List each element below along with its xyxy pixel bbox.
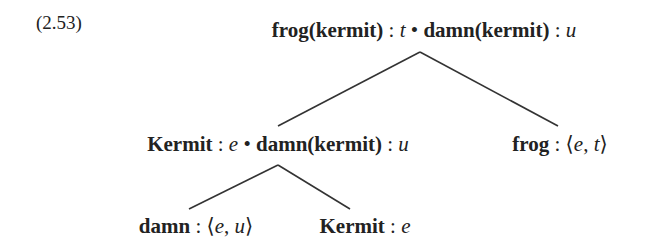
leaf-left-node: damn : ⟨e, u⟩ (139, 214, 253, 239)
bullet-icon: • (411, 18, 418, 42)
edge-mid-left (189, 165, 278, 209)
bullet-icon: • (243, 132, 250, 156)
leaf-right-node: Kermit : e (320, 214, 411, 239)
edge-root-left (278, 52, 420, 126)
mid-right-node: frog : ⟨e, t⟩ (512, 132, 607, 157)
mid-left-node: Kermit : e • damn(kermit) : u (147, 132, 409, 157)
root-node: frog(kermit) : t • damn(kermit) : u (272, 18, 576, 43)
edge-root-right (420, 52, 558, 126)
edge-mid-right (278, 165, 350, 209)
